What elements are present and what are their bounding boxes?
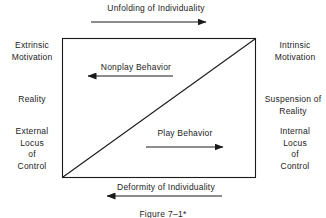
right-label-suspension-of-reality: Suspension of Reality [262, 94, 324, 117]
diagonal-line [63, 39, 255, 177]
right-label-intrinsic-motivation: Intrinsic Motivation [266, 40, 324, 63]
right-label-internal-locus-of-control: Internal Locus of Control [266, 126, 324, 172]
bottom-axis-label: Deformity of Individuality [76, 182, 256, 194]
nonplay-behavior-label: Nonplay Behavior [76, 62, 196, 74]
left-label-external-locus-of-control: External Locus of Control [4, 126, 60, 172]
figure-7-1-diagram: Unfolding of Individuality Deformity of … [0, 0, 326, 218]
left-label-reality: Reality [4, 94, 60, 106]
left-label-extrinsic-motivation: Extrinsic Motivation [4, 40, 60, 63]
figure-caption: Figure 7–1* [0, 209, 326, 218]
play-behavior-label: Play Behavior [130, 128, 240, 140]
top-axis-label: Unfolding of Individuality [66, 3, 246, 15]
